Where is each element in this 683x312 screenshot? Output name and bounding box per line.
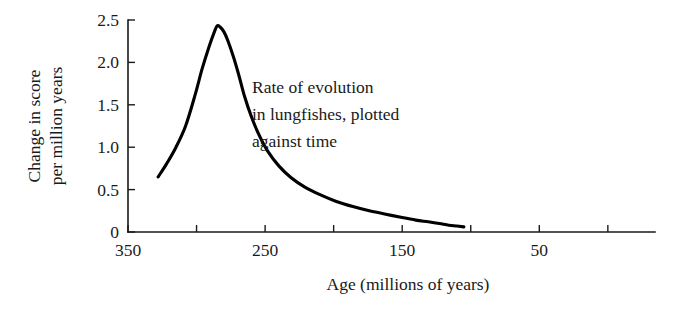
x-tick-label-6: 50 — [531, 240, 549, 260]
annotation-line-2: in lungfishes, plotted — [252, 104, 400, 124]
chart-figure: 00.51.01.52.02.5 35025015050 Change in s… — [0, 0, 683, 312]
data-series-line — [158, 26, 464, 227]
x-axis-title: Age (millions of years) — [327, 274, 490, 294]
x-tick-label-0: 350 — [115, 240, 142, 260]
x-axis-tick-labels: 35025015050 — [115, 240, 548, 260]
x-axis-ticks — [128, 225, 608, 232]
y-tick-label-1: 0.5 — [97, 180, 119, 200]
x-tick-label-2: 250 — [252, 240, 279, 260]
annotation-line-1: Rate of evolution — [252, 77, 374, 97]
y-tick-label-3: 1.5 — [97, 95, 119, 115]
y-axis-title-line-1: Change in score — [24, 69, 44, 182]
chart-annotation: Rate of evolution in lungfishes, plotted… — [252, 77, 400, 151]
annotation-line-3: against time — [252, 131, 337, 151]
y-axis-title-line-2: per million years — [46, 67, 66, 186]
y-tick-label-4: 2.0 — [97, 52, 119, 72]
y-tick-label-2: 1.0 — [97, 137, 119, 157]
y-axis-ticks — [128, 20, 135, 232]
y-axis-tick-labels: 00.51.01.52.02.5 — [97, 10, 119, 242]
y-tick-label-5: 2.5 — [97, 10, 119, 30]
y-axis-title: Change in score per million years — [24, 67, 66, 186]
chart-canvas: 00.51.01.52.02.5 35025015050 Change in s… — [0, 0, 683, 312]
y-tick-label-0: 0 — [110, 222, 119, 242]
x-tick-label-4: 150 — [389, 240, 416, 260]
